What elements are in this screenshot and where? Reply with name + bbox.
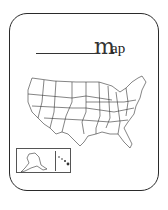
title: m ap	[36, 36, 136, 56]
inset-divider	[55, 151, 56, 171]
hawaii-shape	[57, 155, 71, 167]
title-text: ap	[111, 40, 125, 56]
fill-in-blank-line	[36, 53, 96, 54]
alaska-hawaii-inset	[16, 148, 71, 173]
us-map	[24, 72, 149, 152]
